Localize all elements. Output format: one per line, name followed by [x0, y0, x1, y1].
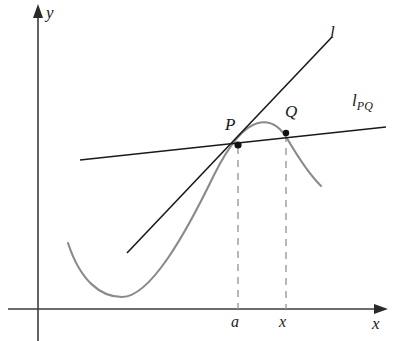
diagram-canvas	[0, 0, 403, 341]
function-curve	[68, 122, 321, 297]
secant-line-label: lPQ	[352, 92, 373, 112]
tangent-line	[127, 37, 332, 253]
x-axis-label: x	[372, 315, 380, 332]
tangent-secant-diagram: y x P Q l a x lPQ	[0, 0, 403, 341]
tick-label-a: a	[231, 314, 239, 330]
point-p-marker	[234, 141, 241, 148]
y-axis-arrow-icon	[33, 4, 43, 18]
y-axis-label: y	[46, 4, 54, 21]
point-q-label: Q	[285, 103, 297, 120]
point-p-label: P	[225, 116, 235, 133]
secant-line-label-subscript: PQ	[357, 99, 373, 113]
tick-label-x: x	[279, 314, 286, 330]
tangent-line-label: l	[330, 24, 335, 41]
x-axis-arrow-icon	[374, 304, 388, 314]
point-q-marker	[283, 130, 289, 136]
